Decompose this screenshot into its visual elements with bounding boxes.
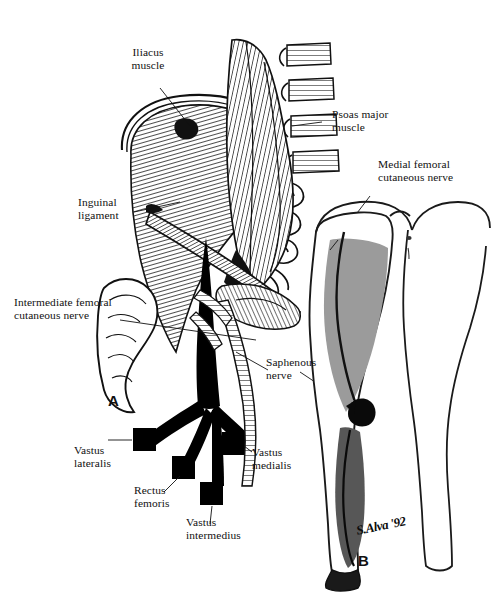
label-intermediate-femoral-cutaneous-nerve: Intermediate femoral cutaneous nerve <box>14 296 164 322</box>
label-vastus-medialis: Vastus medialis <box>252 446 318 472</box>
label-psoas-major-muscle: Psoas major muscle <box>332 108 442 134</box>
foot-near <box>325 570 360 591</box>
panel-letter-b: B <box>358 552 369 569</box>
anatomy-figure: Nerves of the lumbar plexus distribution <box>0 0 493 604</box>
terminal-rectus-femoris <box>172 456 195 479</box>
terminal-vastus-medialis <box>222 432 245 455</box>
label-rectus-femoris: Rectus femoris <box>134 484 196 510</box>
label-iliacus-muscle: Iliacus muscle <box>112 46 184 72</box>
label-vastus-lateralis: Vastus lateralis <box>74 444 136 470</box>
label-medial-femoral-cutaneous-nerve: Medial femoral cutaneous nerve <box>378 158 493 184</box>
label-inguinal-ligament: Inguinal ligament <box>78 196 156 222</box>
terminal-vastus-lateralis <box>133 428 156 451</box>
label-vastus-intermedius: Vastus intermedius <box>186 516 266 542</box>
label-saphenous-nerve: Saphenous nerve <box>266 356 352 382</box>
panel-letter-a: A <box>108 392 119 409</box>
terminal-vastus-intermedius <box>200 482 223 505</box>
